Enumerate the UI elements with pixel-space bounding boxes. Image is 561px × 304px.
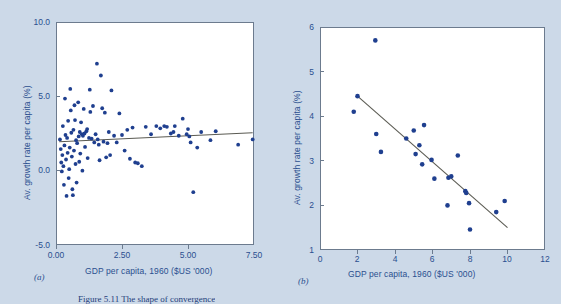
data-point bbox=[62, 183, 66, 187]
data-point bbox=[128, 157, 132, 161]
data-point bbox=[112, 134, 116, 138]
data-point bbox=[69, 109, 73, 113]
data-point bbox=[90, 137, 94, 141]
data-point bbox=[83, 145, 87, 149]
data-point bbox=[95, 62, 99, 66]
data-point bbox=[144, 125, 148, 129]
data-point bbox=[467, 201, 472, 206]
data-point bbox=[379, 150, 384, 155]
data-point bbox=[99, 74, 103, 78]
data-point bbox=[61, 164, 65, 168]
data-point bbox=[432, 176, 437, 181]
data-point bbox=[77, 135, 81, 139]
data-point bbox=[58, 138, 62, 142]
data-point bbox=[236, 143, 240, 147]
data-point bbox=[106, 141, 110, 145]
data-point bbox=[86, 156, 90, 160]
data-point bbox=[70, 187, 74, 191]
data-point bbox=[411, 128, 416, 133]
data-point bbox=[494, 210, 499, 215]
data-point bbox=[98, 158, 102, 162]
data-point bbox=[75, 181, 79, 185]
data-point bbox=[78, 152, 82, 156]
data-point bbox=[123, 149, 127, 153]
data-point bbox=[92, 141, 96, 145]
data-point bbox=[422, 123, 427, 128]
data-point bbox=[417, 143, 422, 148]
data-point bbox=[107, 130, 111, 134]
data-point bbox=[63, 143, 67, 147]
data-point bbox=[73, 118, 77, 122]
data-point bbox=[73, 103, 77, 107]
data-point bbox=[67, 167, 71, 171]
data-point bbox=[413, 152, 418, 157]
data-point bbox=[199, 130, 203, 134]
data-point bbox=[502, 199, 507, 204]
data-point bbox=[186, 127, 190, 131]
data-point bbox=[177, 134, 181, 138]
data-point bbox=[79, 120, 83, 124]
data-point bbox=[68, 146, 72, 150]
data-point bbox=[449, 174, 454, 179]
data-point bbox=[74, 162, 78, 166]
data-point bbox=[72, 128, 76, 132]
data-point bbox=[82, 107, 86, 111]
panel-a: Av. growth rate per capita (%) 10.0 5.0 … bbox=[0, 0, 280, 302]
data-point bbox=[94, 132, 98, 136]
figure-caption: Figure 5.11 The shape of convergence bbox=[78, 294, 215, 304]
data-point bbox=[404, 136, 409, 141]
data-point bbox=[373, 38, 378, 43]
data-point bbox=[173, 124, 177, 128]
data-point bbox=[374, 132, 379, 137]
data-point bbox=[191, 190, 195, 194]
data-point bbox=[115, 141, 119, 145]
data-point bbox=[64, 158, 68, 162]
data-point bbox=[103, 111, 107, 115]
data-point bbox=[61, 124, 65, 128]
data-point bbox=[96, 138, 100, 142]
data-point bbox=[77, 160, 81, 164]
data-point bbox=[88, 88, 92, 92]
data-point bbox=[76, 100, 80, 104]
data-point bbox=[120, 133, 124, 137]
data-point bbox=[355, 94, 360, 99]
data-point bbox=[100, 106, 104, 110]
data-point bbox=[251, 138, 255, 142]
data-point bbox=[60, 153, 64, 157]
data-point bbox=[108, 153, 112, 157]
data-point bbox=[70, 155, 74, 159]
data-point bbox=[149, 132, 153, 136]
data-point bbox=[181, 117, 185, 121]
data-point bbox=[59, 147, 63, 151]
data-point bbox=[195, 146, 199, 150]
data-point bbox=[136, 161, 140, 165]
panel-a-scatter-layer bbox=[0, 0, 280, 302]
data-point bbox=[189, 141, 193, 145]
data-point bbox=[165, 125, 169, 129]
data-point bbox=[72, 149, 76, 153]
data-point bbox=[464, 191, 469, 196]
data-point bbox=[67, 176, 71, 180]
data-point bbox=[85, 127, 89, 131]
data-point bbox=[88, 110, 92, 114]
data-point bbox=[158, 126, 162, 130]
data-point bbox=[172, 130, 176, 134]
panel-b: Av. growth rate per capita (%) 6 5 4 3 2… bbox=[280, 0, 561, 302]
data-point bbox=[445, 203, 450, 208]
data-point bbox=[59, 161, 63, 165]
data-point bbox=[81, 169, 85, 173]
data-point bbox=[65, 136, 69, 140]
data-point bbox=[468, 227, 473, 232]
data-point bbox=[187, 135, 191, 139]
data-point bbox=[104, 155, 108, 159]
data-point bbox=[110, 88, 114, 92]
data-point bbox=[60, 170, 64, 174]
data-point bbox=[131, 126, 135, 130]
data-point bbox=[351, 109, 356, 114]
data-point bbox=[117, 112, 121, 116]
panel-b-scatter-layer bbox=[280, 0, 561, 302]
data-point bbox=[75, 141, 79, 145]
data-point bbox=[66, 119, 70, 123]
data-point bbox=[102, 140, 106, 144]
